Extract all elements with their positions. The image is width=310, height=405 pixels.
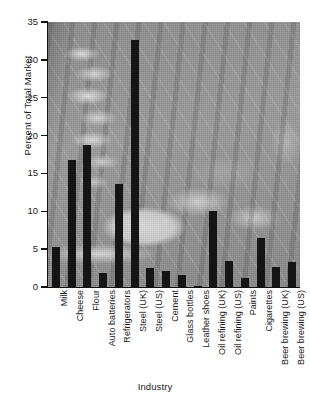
x-axis-tick-label: Milk: [59, 290, 69, 306]
y-axis-tick-label: 30: [0, 54, 38, 65]
bar: [162, 271, 170, 287]
bar: [83, 145, 91, 287]
x-axis-tick-label: Steel (US): [154, 290, 164, 332]
y-axis-title: Percent of Total Market: [22, 21, 33, 191]
bar: [146, 268, 154, 287]
y-axis-tick: [41, 135, 48, 136]
x-axis-title: Industry: [0, 381, 310, 392]
bar: [178, 275, 186, 287]
x-axis-tick-label: Glass bottles: [185, 290, 195, 343]
x-axis-tick-label: Oil refining (US): [233, 290, 243, 355]
y-axis-tick-label: 5: [0, 243, 38, 254]
y-axis-tick-label: 10: [0, 205, 38, 216]
x-axis-tick-label: Steel (UK): [138, 290, 148, 332]
y-axis-tick-label: 20: [0, 130, 38, 141]
x-axis-tick-labels: MilkCheeseFlourAuto batteriesRefrigerato…: [48, 290, 300, 382]
y-axis-tick-label: 25: [0, 92, 38, 103]
bar: [288, 262, 296, 287]
y-axis-tick-label: 35: [0, 16, 38, 27]
bar: [209, 211, 217, 287]
y-axis-tick: [41, 286, 48, 287]
x-axis-tick-label: Refrigerators: [122, 290, 132, 343]
bar: [68, 160, 76, 287]
bar-chart-figure: Percent of Total Market 05101520253035 M…: [0, 0, 310, 405]
bar: [115, 184, 123, 287]
y-axis-tick-label: 0: [0, 281, 38, 292]
bar: [241, 278, 249, 287]
y-axis-tick: [41, 173, 48, 174]
x-axis-tick-label: Flour: [91, 290, 101, 311]
x-axis-line: [47, 287, 300, 288]
x-axis-tick-label: Beer brewing (US): [296, 290, 306, 365]
bar: [272, 267, 280, 287]
x-axis-tick-label: Leather shoes: [201, 290, 211, 348]
y-axis-tick: [41, 59, 48, 60]
y-axis-tick-label: 15: [0, 167, 38, 178]
x-axis-tick-label: Auto batteries: [107, 290, 117, 346]
y-axis-tick: [41, 211, 48, 212]
bar-series: [48, 22, 300, 287]
bar: [257, 238, 265, 287]
y-axis-tick: [41, 97, 48, 98]
x-axis-tick-label: Cement: [170, 290, 180, 322]
bar: [131, 40, 139, 287]
x-axis-tick-label: Cheese: [75, 290, 85, 321]
x-axis-tick-label: Beer brewing (UK): [280, 290, 290, 365]
x-axis-tick-label: Paints: [248, 290, 258, 315]
bar: [225, 261, 233, 287]
x-axis-tick-label: Oil refining (UK): [217, 290, 227, 355]
y-axis-tick: [41, 248, 48, 249]
x-axis-tick-label: Cigarettes: [264, 290, 274, 332]
y-axis-tick: [41, 21, 48, 22]
plot-area: [48, 22, 300, 287]
bar: [99, 273, 107, 287]
bar: [52, 247, 60, 287]
bar: [194, 286, 202, 288]
